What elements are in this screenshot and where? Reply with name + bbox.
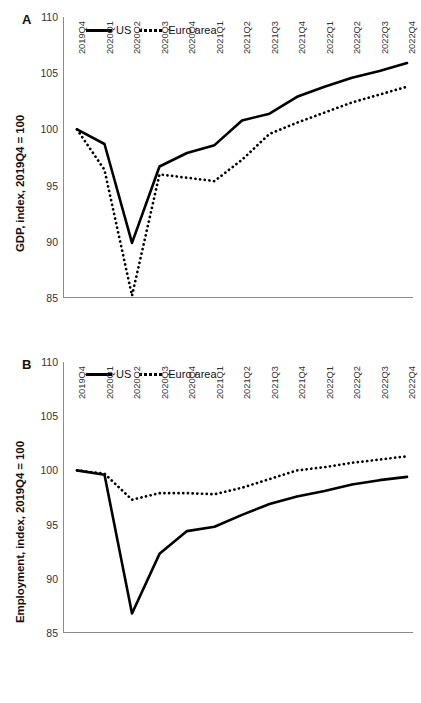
y-tick-label: 85 bbox=[46, 292, 58, 304]
x-tick-label: 2022Q1 bbox=[325, 366, 335, 399]
x-tick-label: 2019Q4 bbox=[77, 21, 87, 54]
x-tick-label: 2020Q3 bbox=[160, 21, 170, 54]
x-tick-label: 2021Q1 bbox=[215, 366, 225, 399]
y-tick-label: 95 bbox=[46, 180, 58, 192]
series-line-us bbox=[77, 63, 407, 243]
x-tick-label: 2021Q4 bbox=[297, 366, 307, 399]
x-tick-label: 2020Q3 bbox=[160, 366, 170, 399]
x-tick-label: 2020Q4 bbox=[187, 21, 197, 54]
x-tick-label: 2022Q3 bbox=[380, 21, 390, 54]
series-line-euro-area bbox=[77, 456, 407, 499]
y-tick-label: 90 bbox=[46, 236, 58, 248]
x-tick-label: 2020Q1 bbox=[105, 21, 115, 54]
x-tick-label: 2021Q3 bbox=[270, 21, 280, 54]
x-tick-label: 2021Q4 bbox=[297, 21, 307, 54]
x-tick-label: 2020Q4 bbox=[187, 366, 197, 399]
x-tick-label: 2022Q1 bbox=[325, 21, 335, 54]
y-tick-label: 100 bbox=[40, 464, 58, 476]
panel-b-letter: B bbox=[22, 357, 31, 372]
x-tick-label: 2021Q2 bbox=[242, 21, 252, 54]
x-tick-label: 2021Q2 bbox=[242, 366, 252, 399]
panel-a-letter: A bbox=[22, 12, 31, 27]
y-tick-label: 105 bbox=[40, 67, 58, 79]
series-line-euro-area bbox=[77, 87, 407, 296]
y-tick-label: 110 bbox=[41, 11, 58, 23]
y-tick-label: 100 bbox=[40, 123, 58, 135]
y-tick-label: 85 bbox=[46, 627, 58, 639]
x-tick-label: 2022Q3 bbox=[380, 366, 390, 399]
x-tick-label: 2022Q4 bbox=[407, 21, 417, 54]
y-tick-label: 90 bbox=[46, 573, 58, 585]
panel-a-y-axis-label: GDP, index, 2019Q4 = 100 bbox=[14, 115, 26, 252]
x-tick-label: 2021Q1 bbox=[215, 21, 225, 54]
x-tick-label: 2022Q2 bbox=[352, 366, 362, 399]
panel-b-y-axis-label: Employment, index, 2019Q4 = 100 bbox=[14, 441, 26, 623]
panel-b: B Employment, index, 2019Q4 = 100 US Eur… bbox=[0, 348, 421, 703]
x-tick-label: 2022Q4 bbox=[407, 366, 417, 399]
panel-a-plot-area: 8590951001051102019Q42020Q12020Q22020Q32… bbox=[63, 17, 413, 298]
x-tick-label: 2020Q2 bbox=[132, 21, 142, 54]
panel-b-series-canvas bbox=[63, 362, 413, 633]
panel-a: A GDP, index, 2019Q4 = 100 US Euro area … bbox=[0, 0, 421, 352]
y-tick-label: 110 bbox=[41, 356, 58, 368]
y-tick-label: 95 bbox=[46, 519, 58, 531]
x-tick-label: 2020Q2 bbox=[132, 366, 142, 399]
x-tick-label: 2021Q3 bbox=[270, 366, 280, 399]
x-tick-label: 2019Q4 bbox=[77, 366, 87, 399]
panel-a-series-canvas bbox=[63, 17, 413, 298]
panel-b-plot-area: 8590951001051102019Q42020Q12020Q22020Q32… bbox=[63, 362, 413, 633]
x-tick-label: 2020Q1 bbox=[105, 366, 115, 399]
x-tick-label: 2022Q2 bbox=[352, 21, 362, 54]
y-tick-label: 105 bbox=[40, 410, 58, 422]
series-line-us bbox=[77, 470, 407, 613]
